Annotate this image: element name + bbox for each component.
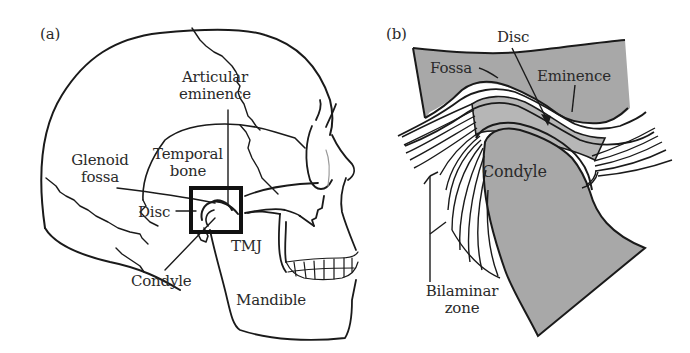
label-articular-eminence-line2: eminence [160, 86, 270, 103]
label-glenoid-fossa: Glenoid fossa [64, 152, 136, 186]
label-disc-b: Disc [497, 29, 529, 46]
label-temporal-bone-line2: bone [148, 163, 228, 180]
label-glenoid-fossa-line2: fossa [64, 169, 136, 186]
label-condyle-b: Condyle [482, 163, 547, 180]
label-condyle-a: Condyle [131, 273, 192, 290]
label-disc-a: Disc [138, 204, 170, 221]
label-articular-eminence-line1: Articular [160, 69, 270, 86]
label-bilaminar-zone-line2: zone [414, 300, 510, 317]
label-bilaminar-zone-line1: Bilaminar [414, 283, 510, 300]
disc-arrow-head [541, 114, 551, 126]
label-tmj: TMJ [231, 238, 262, 255]
tmj-anatomy-figure: (a) Articular eminence Glenoid fossa Tem… [0, 0, 690, 353]
label-bilaminar-zone: Bilaminar zone [414, 283, 510, 317]
label-fossa: Fossa [430, 60, 472, 77]
panel-a-tag: (a) [40, 26, 60, 43]
label-temporal-bone-line1: Temporal [148, 146, 228, 163]
label-glenoid-fossa-line1: Glenoid [64, 152, 136, 169]
label-mandible: Mandible [236, 292, 306, 309]
label-temporal-bone: Temporal bone [148, 146, 228, 180]
label-eminence: Eminence [537, 68, 611, 85]
panel-b-tag: (b) [386, 26, 407, 43]
articular-disc [472, 97, 605, 160]
label-articular-eminence: Articular eminence [160, 69, 270, 103]
